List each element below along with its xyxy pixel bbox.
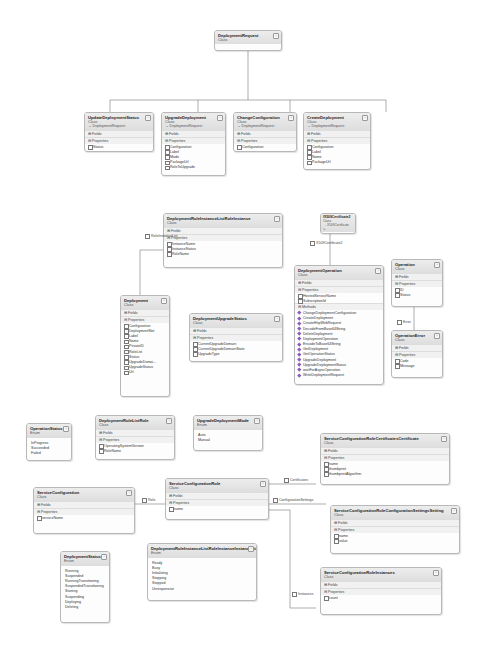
fields-section[interactable]: ⊞ Fields xyxy=(162,130,225,137)
fields-section[interactable]: ⊞ Fields xyxy=(166,492,268,499)
enum-deployment-status[interactable]: DeploymentStatus Enum ⌃ Running Suspende… xyxy=(60,551,110,623)
properties-section[interactable]: ⊟ Properties xyxy=(162,137,225,144)
property-icon xyxy=(310,241,315,246)
class-change-configuration[interactable]: ChangeConfiguration Class → DeploymentRe… xyxy=(233,112,297,152)
class-deployment-role-instance-list-role-instance[interactable]: DeploymentRoleInstanceListRoleInstance C… xyxy=(163,213,283,268)
class-kind: Class xyxy=(298,273,380,277)
collapse-toggle-icon[interactable]: ⌃ xyxy=(217,115,223,121)
collapse-toggle-icon[interactable]: ⌃ xyxy=(260,481,266,487)
class-upgrade-deployment[interactable]: UpgradeDeployment Class → DeploymentRequ… xyxy=(161,112,226,176)
fields-section[interactable]: ⊞ Fields xyxy=(295,279,383,286)
properties-section[interactable]: ⊟ Properties xyxy=(190,334,282,341)
fields-section[interactable]: ⊞ Fields xyxy=(321,581,441,588)
class-header: DeploymentRoleListRole Class ⌃ xyxy=(96,416,174,429)
collapse-toggle-icon[interactable]: ⌃ xyxy=(434,262,440,268)
fields-section[interactable]: ⊞ Fields xyxy=(190,327,282,334)
collapse-toggle-icon[interactable]: ⌃ xyxy=(274,316,280,322)
class-service-configuration-role[interactable]: ServiceConfigurationRole Class ⌃ ⊞ Field… xyxy=(165,478,269,520)
fields-section[interactable]: ⊞ Fields xyxy=(304,130,370,137)
enum-operation-status[interactable]: OperationStatus Enum ⌃ InProgress Succee… xyxy=(26,423,72,461)
class-header: ServiceConfigurationRoleCertificatesCert… xyxy=(321,434,449,447)
class-header: DeploymentUpgradeStatus Class ⌃ xyxy=(190,314,282,327)
fields-section[interactable]: ⊞ Fields xyxy=(164,227,282,234)
class-configuration-settings-setting[interactable]: ServiceConfigurationRoleConfigurationSet… xyxy=(330,505,460,554)
collapse-toggle-icon[interactable]: ⌃ xyxy=(441,436,447,442)
collapse-toggle-icon[interactable]: ⌃ xyxy=(248,546,254,552)
collapse-toggle-icon[interactable]: ⌃ xyxy=(166,418,172,424)
collapse-toggle-icon[interactable]: ⌃ xyxy=(274,216,280,222)
properties-section[interactable]: ⊟ Properties xyxy=(392,280,442,287)
properties-section[interactable]: ⊟ Properties xyxy=(295,286,383,293)
collapse-toggle-icon[interactable]: ⌃ xyxy=(433,570,439,576)
fields-section[interactable]: ⊞ Fields xyxy=(392,273,442,280)
class-create-deployment[interactable]: CreateDeployment Class → DeploymentReque… xyxy=(303,112,371,170)
collapse-toggle-icon[interactable]: ⌃ xyxy=(101,554,107,560)
property-icon xyxy=(142,498,147,503)
class-x509-certificate2[interactable]: IX509Certificate2 Class → X509Certificat… xyxy=(320,213,356,234)
collapse-toggle-icon[interactable]: ⌃ xyxy=(434,333,440,339)
class-deployment-request[interactable]: DeploymentRequest Class ⌃ xyxy=(214,30,282,51)
property-icon xyxy=(169,507,174,512)
class-kind: Class xyxy=(395,338,439,342)
collapse-toggle-icon[interactable]: ⌃ xyxy=(126,490,132,496)
fields-section[interactable]: ⊞ Fields xyxy=(234,130,296,137)
properties-section[interactable]: ⊟ Properties xyxy=(304,137,370,144)
association-role-instance-list: RoleInstanceList xyxy=(145,234,178,239)
method-icon xyxy=(297,373,301,377)
fields-section[interactable]: ⊞ Fields xyxy=(34,501,134,508)
properties-section[interactable]: ⊟ Properties xyxy=(331,526,459,533)
fields-section[interactable]: ⊞ Fields xyxy=(392,344,442,351)
methods-section[interactable]: ⊟ Methods xyxy=(295,303,383,310)
properties-section[interactable]: ⊟ Properties xyxy=(96,436,174,443)
class-service-configuration[interactable]: ServiceConfiguration Class ⌃ ⊞ Fields ⊟ … xyxy=(33,487,135,534)
collapse-toggle-icon[interactable]: ⌃ xyxy=(145,115,151,121)
properties-section[interactable]: ⊟ Properties xyxy=(34,508,134,515)
collapse-toggle-icon[interactable]: ⌃ xyxy=(375,268,381,274)
class-header: OperationError Class ⌃ xyxy=(392,331,442,344)
collapse-toggle-icon[interactable]: ⌃ xyxy=(362,115,368,121)
fields-section[interactable]: ⊞ Fields xyxy=(85,130,153,137)
class-kind: Class xyxy=(37,495,131,499)
property-icon xyxy=(165,166,170,171)
enum-instance-status[interactable]: DeploymentRoleInstanceListRoleInstanceIn… xyxy=(147,543,257,601)
properties-section[interactable]: ⊟ Properties xyxy=(85,137,153,144)
collapse-toggle-icon[interactable]: ⌃ xyxy=(254,418,260,424)
property-icon xyxy=(307,161,312,166)
fields-section[interactable]: ⊞ Fields xyxy=(331,519,459,526)
collapse-toggle-icon[interactable]: ⌃ xyxy=(273,33,279,39)
enum-value: SuspendedTransitioning xyxy=(61,584,109,589)
property-icon xyxy=(334,539,339,544)
properties-section[interactable]: ⊟ Properties xyxy=(321,454,449,461)
class-deployment-role-list-role[interactable]: DeploymentRoleListRole Class ⌃ ⊞ Fields … xyxy=(95,415,175,460)
class-deployment-upgrade-status[interactable]: DeploymentUpgradeStatus Class ⌃ ⊞ Fields… xyxy=(189,313,283,362)
class-operation[interactable]: Operation Class ⌃ ⊞ Fields ⊟ Properties … xyxy=(391,259,443,307)
properties-section[interactable]: ⊟ Properties xyxy=(321,588,441,595)
properties-section[interactable]: ⊟ Properties xyxy=(166,499,268,506)
property-item: thumbprintAlgorithm xyxy=(321,471,449,476)
class-operation-error[interactable]: OperationError Class ⌃ ⊞ Fields ⊟ Proper… xyxy=(391,330,443,378)
enum-upgrade-deployment-mode[interactable]: UpgradeDeploymentMode Enum ⌃ Auto Manual xyxy=(193,415,263,451)
properties-section[interactable]: ⊟ Properties xyxy=(121,316,169,323)
property-icon xyxy=(167,252,172,257)
fields-section[interactable]: ⊞ Fields xyxy=(121,309,169,316)
collapse-toggle-icon[interactable]: ⌃ xyxy=(288,115,294,121)
fields-section[interactable]: ⊞ Fields xyxy=(321,447,449,454)
collapse-toggle-icon[interactable]: ⌃ xyxy=(63,426,69,432)
collapse-toggle-icon[interactable]: ⌃ xyxy=(451,508,457,514)
property-item: Url xyxy=(121,370,169,375)
properties-section[interactable]: ⊟ Properties xyxy=(164,234,282,241)
property-item: RoleName xyxy=(164,251,282,256)
collapse-toggle-icon[interactable]: ⌃ xyxy=(161,298,167,304)
class-service-configuration-role-instances[interactable]: ServiceConfigurationRoleInstances Class … xyxy=(320,567,442,615)
class-update-deployment-status[interactable]: UpdateDeploymentStatus Class → Deploymen… xyxy=(84,112,154,152)
class-name: DeploymentRoleInstanceListRoleInstanceIn… xyxy=(151,546,253,551)
fields-section[interactable]: ⊞ Fields xyxy=(96,429,174,436)
class-header: OperationStatus Enum ⌃ xyxy=(27,424,71,437)
class-header: CreateDeployment Class → DeploymentReque… xyxy=(304,113,370,130)
class-service-configuration-role-certificates-certificate[interactable]: ServiceConfigurationRoleCertificatesCert… xyxy=(320,433,450,485)
class-deployment[interactable]: Deployment Class ⌃ ⊞ Fields ⊟ Properties… xyxy=(120,295,170,397)
properties-section[interactable]: ⊟ Properties xyxy=(234,137,296,144)
properties-section[interactable]: ⊟ Properties xyxy=(392,351,442,358)
class-deployment-operation[interactable]: DeploymentOperation Class ⌃ ⊞ Fields ⊟ P… xyxy=(294,265,384,385)
method-icon xyxy=(297,368,301,372)
